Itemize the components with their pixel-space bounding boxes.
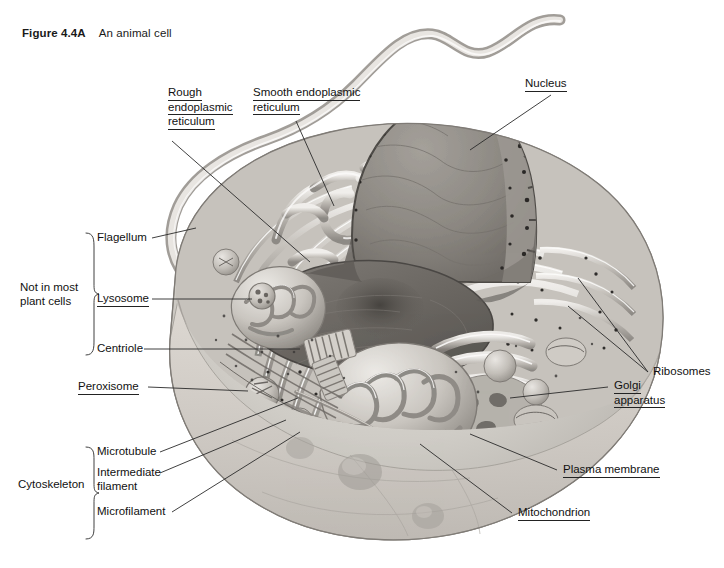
group-cytoskeleton-text: Cytoskeleton — [18, 478, 84, 490]
label-microtubule: Microtubule — [97, 445, 156, 459]
group-not-in-most-line1: Not in most — [20, 281, 78, 293]
label-rough-endoplasmic-reticulum: Rough endoplasmic reticulum — [168, 86, 240, 130]
group-label-cytoskeleton: Cytoskeleton — [18, 478, 84, 492]
label-intermediate-line2: filament — [97, 480, 137, 492]
label-layer: Rough endoplasmic reticulum Smooth endop… — [0, 0, 724, 568]
label-golgi-line2: apparatus — [614, 394, 665, 409]
label-microtubule-text: Microtubule — [97, 445, 156, 457]
label-rough-er-line3: reticulum — [168, 115, 215, 130]
label-intermediate-filament: Intermediate filament — [97, 466, 175, 493]
label-centriole-text: Centriole — [97, 342, 143, 354]
label-ribosomes: Ribosomes — [653, 365, 711, 379]
group-not-in-most-line2: plant cells — [20, 295, 71, 307]
label-lysosome: Lysosome — [97, 292, 149, 307]
label-mitochondrion-text: Mitochondrion — [518, 506, 590, 521]
label-rough-er-line2: endoplasmic — [168, 101, 233, 116]
label-rough-er-line1: Rough — [168, 86, 202, 101]
figure-page: Figure 4.4AAn animal cell — [0, 0, 724, 568]
label-lysosome-text: Lysosome — [97, 292, 149, 307]
label-plasma-membrane-text: Plasma membrane — [563, 463, 660, 478]
label-flagellum: Flagellum — [97, 231, 147, 245]
label-plasma-membrane: Plasma membrane — [563, 463, 660, 478]
label-peroxisome: Peroxisome — [78, 380, 139, 395]
label-microfilament: Microfilament — [97, 505, 165, 519]
label-nucleus: Nucleus — [525, 77, 567, 92]
label-intermediate-line1: Intermediate — [97, 466, 161, 478]
label-smooth-er-line1: Smooth endoplasmic — [253, 86, 360, 101]
label-flagellum-text: Flagellum — [97, 231, 147, 243]
label-smooth-er-line2: reticulum — [253, 101, 300, 116]
label-ribosomes-text: Ribosomes — [653, 365, 711, 377]
label-smooth-endoplasmic-reticulum: Smooth endoplasmic reticulum — [253, 86, 371, 115]
label-microfilament-text: Microfilament — [97, 505, 165, 517]
label-centriole: Centriole — [97, 342, 143, 356]
label-mitochondrion: Mitochondrion — [518, 506, 590, 521]
label-peroxisome-text: Peroxisome — [78, 380, 139, 395]
label-nucleus-text: Nucleus — [525, 77, 567, 92]
label-golgi-apparatus: Golgi apparatus — [614, 379, 684, 408]
group-label-not-in-most-plant-cells: Not in most plant cells — [20, 281, 94, 308]
label-golgi-line1: Golgi — [614, 379, 641, 394]
